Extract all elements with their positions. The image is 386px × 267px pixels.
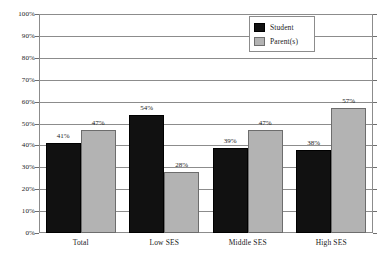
y-axis-tick-mark-right [373, 80, 377, 81]
y-axis-tick-mark-left [35, 233, 39, 234]
bar-student-low-ses [129, 115, 164, 233]
y-axis-tick-mark-right [373, 14, 377, 15]
x-axis-label-total: Total [39, 238, 123, 248]
bar-student-high-ses [296, 150, 331, 233]
y-axis-tick-mark-right [373, 124, 377, 125]
bar-parent-s-high-ses [331, 108, 366, 233]
bar-value-label: 47% [75, 119, 122, 127]
bar-value-label: 41% [40, 132, 87, 140]
bar-value-label: 28% [158, 161, 205, 169]
chart-legend: Student Parent(s) [249, 16, 315, 52]
x-axis-label-middle-ses: Middle SES [206, 238, 290, 248]
y-axis-tick-mark-right [373, 102, 377, 103]
bar-value-label: 57% [325, 97, 372, 105]
legend-swatch-parents-icon [254, 37, 265, 46]
y-axis-tick-mark-right [373, 36, 377, 37]
y-axis-tick-mark-right [373, 145, 377, 146]
bar-parent-s-middle-ses [248, 130, 283, 233]
bar-parent-s-total [81, 130, 116, 233]
legend-item-parents: Parent(s) [254, 35, 309, 47]
legend-label-student: Student [270, 23, 294, 32]
bar-parent-s-low-ses [164, 172, 199, 233]
bar-value-label: 47% [242, 119, 289, 127]
x-axis-label-high-ses: High SES [290, 238, 374, 248]
x-axis-category-labels: TotalLow SESMiddle SESHigh SES [39, 238, 373, 252]
y-axis-tick-mark-right [373, 233, 377, 234]
legend-swatch-student-icon [254, 23, 265, 32]
y-axis-tick-mark-right [373, 58, 377, 59]
bar-value-label: 54% [123, 104, 170, 112]
bars-layer: 41%47%54%28%39%47%38%57% [39, 14, 373, 233]
y-axis-tick-mark-right [373, 189, 377, 190]
bar-value-label: 39% [207, 137, 254, 145]
bar-student-middle-ses [213, 148, 248, 233]
y-axis-tick-mark-right [373, 211, 377, 212]
x-axis-label-low-ses: Low SES [123, 238, 207, 248]
legend-label-parents: Parent(s) [270, 37, 298, 46]
legend-item-student: Student [254, 21, 309, 33]
y-axis-tick-mark-right [373, 167, 377, 168]
bar-student-total [46, 143, 81, 233]
bar-chart: 0%10%20%30%40%50%60%70%80%90%100% 41%47%… [0, 0, 386, 267]
bar-value-label: 38% [290, 139, 337, 147]
